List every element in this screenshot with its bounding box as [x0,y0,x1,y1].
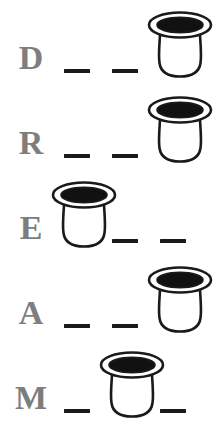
answer-slot[interactable] [154,255,202,340]
worksheet-canvas: DREAM [0,0,224,427]
blank-dash[interactable] [64,69,90,73]
puzzle-row: D [0,0,224,85]
blank-dash[interactable] [64,154,90,158]
row-letter-a: A [10,296,52,330]
blank-dash[interactable] [112,324,138,328]
puzzle-row: A [0,255,224,340]
slot-group [58,340,224,425]
row-letter-e: E [10,211,52,245]
blank-dash[interactable] [112,69,138,73]
row-letter-r: R [10,126,52,160]
answer-slot[interactable] [106,170,154,255]
slot-group [58,170,224,255]
slot-group [58,255,224,340]
blank-dash[interactable] [112,154,138,158]
row-letter-m: M [10,381,52,415]
answer-slot[interactable] [106,340,154,425]
puzzle-row: R [0,85,224,170]
answer-slot[interactable] [154,170,202,255]
cup-icon [147,95,213,165]
slot-group [58,85,224,170]
cup-icon [147,265,213,335]
cup-icon-graphic [147,95,213,165]
blank-dash[interactable] [64,324,90,328]
blank-dash[interactable] [160,239,186,243]
answer-slot[interactable] [58,255,106,340]
answer-slot[interactable] [58,170,106,255]
cup-icon [147,10,213,80]
cup-icon-graphic [147,265,213,335]
blank-dash[interactable] [112,239,138,243]
slot-group [58,0,224,85]
row-letter-d: D [10,41,52,75]
answer-slot[interactable] [58,85,106,170]
answer-slot[interactable] [154,340,202,425]
answer-slot[interactable] [58,0,106,85]
answer-slot[interactable] [154,85,202,170]
blank-dash[interactable] [160,409,186,413]
answer-slot[interactable] [154,0,202,85]
puzzle-row: E [0,170,224,255]
blank-dash[interactable] [64,409,90,413]
puzzle-row: M [0,340,224,425]
cup-icon-graphic [147,10,213,80]
